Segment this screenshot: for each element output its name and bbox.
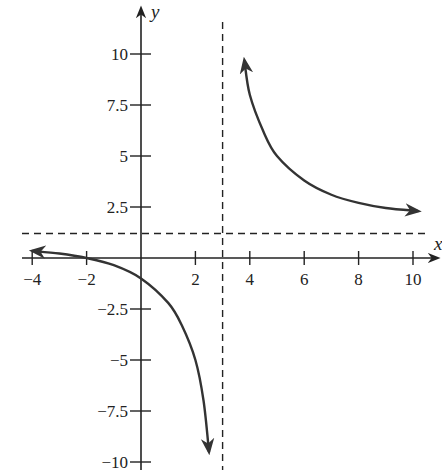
x-tick-label: −4 [23, 270, 42, 289]
curve-right-branch [244, 60, 418, 211]
y-tick-label: 10 [111, 45, 128, 64]
x-tick-label: 4 [246, 270, 255, 289]
y-tick-label: −7.5 [97, 402, 128, 421]
y-tick-label: −5 [110, 351, 128, 370]
y-axis-label: y [149, 1, 160, 22]
y-tick-label: 2.5 [107, 198, 128, 217]
y-tick-label: 7.5 [107, 96, 128, 115]
y-tick-label: 5 [120, 147, 129, 166]
x-tick-label: 6 [300, 270, 309, 289]
axes [22, 8, 438, 470]
graph-canvas: −4−2246810107.552.5−2.5−5−7.5−10 x y [0, 0, 442, 470]
x-tick-label: −2 [78, 270, 96, 289]
x-axis-label: x [433, 233, 442, 254]
function-curves [32, 60, 418, 452]
x-tick-label: 8 [354, 270, 363, 289]
x-tick-label: 2 [191, 270, 200, 289]
y-tick-label: −2.5 [97, 300, 128, 319]
x-tick-label: 10 [405, 270, 422, 289]
asymptote-lines [22, 22, 425, 470]
y-tick-label: −10 [101, 453, 128, 470]
